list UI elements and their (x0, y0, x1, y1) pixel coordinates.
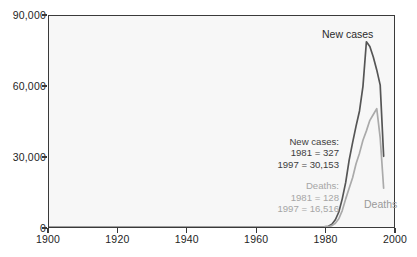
annotation-new-cases: New cases: 1981 = 327 1997 = 30,153 (213, 136, 339, 170)
annotation-new-cases-1997: 1997 = 30,153 (213, 159, 339, 170)
series-label-new-cases: New cases (322, 29, 373, 40)
line-chart: 030,00060,00090,000 19001920194019601980… (0, 0, 417, 257)
x-tick-mark (325, 228, 326, 233)
x-tick-mark (256, 228, 257, 233)
x-tick-label: 1900 (20, 234, 76, 245)
annotation-block: New cases: 1981 = 327 1997 = 30,153 Deat… (213, 136, 339, 214)
annotation-deaths-1997: 1997 = 16,516 (213, 203, 339, 214)
x-tick-label: 1960 (228, 234, 284, 245)
x-tick-mark (117, 228, 118, 233)
x-tick-mark (394, 228, 395, 233)
x-tick-label: 1980 (298, 234, 354, 245)
annotation-new-cases-1981: 1981 = 327 (213, 147, 339, 158)
series-label-deaths: Deaths (364, 199, 397, 210)
x-tick-mark (47, 228, 48, 233)
annotation-deaths-1981: 1981 = 128 (213, 192, 339, 203)
annotation-deaths-heading: Deaths: (213, 180, 339, 191)
x-tick-label: 2000 (367, 234, 417, 245)
annotation-deaths: Deaths: 1981 = 128 1997 = 16,516 (213, 180, 339, 214)
x-tick-label: 1920 (89, 234, 145, 245)
annotation-new-cases-heading: New cases: (213, 136, 339, 147)
x-tick-mark (186, 228, 187, 233)
x-tick-label: 1940 (159, 234, 215, 245)
